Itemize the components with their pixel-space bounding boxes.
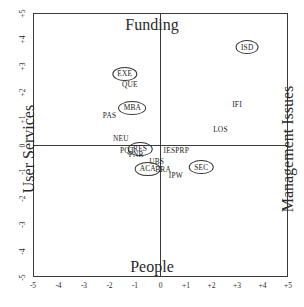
data-point-ifi: IFI (232, 100, 242, 109)
data-point-ipw: IPW (169, 171, 183, 180)
axis-title-top: Funding (0, 16, 304, 34)
x-tick-+3: +3 (233, 281, 241, 290)
data-point-pnr: PNR (129, 150, 144, 159)
x-tick-+4: +4 (259, 281, 267, 290)
y-tick-+3: +3 (18, 58, 27, 74)
axis-title-bottom: People (0, 258, 304, 276)
y-tick-+4: +4 (18, 32, 27, 48)
y-tick-+2: +2 (18, 85, 27, 101)
x-tick-+5: +5 (284, 281, 292, 290)
x-tick-+2: +2 (208, 281, 216, 290)
y-tick--3: -3 (18, 217, 27, 233)
data-point-pas: PAS (103, 110, 116, 119)
data-point-prp: PRP (175, 146, 189, 155)
data-point-sec: SEC (189, 161, 214, 175)
data-point-exe: EXE (112, 67, 137, 81)
y-tick-0: 0 (18, 138, 27, 154)
x-tick--5: -5 (30, 281, 36, 290)
y-tick-+5: +5 (18, 6, 27, 22)
axis-title-right: Management Issues (279, 74, 297, 224)
data-point-mba: MBA (119, 101, 147, 115)
x-tick--1: -1 (132, 281, 138, 290)
data-point-isd: ISD (236, 40, 259, 54)
y-tick--1: -1 (18, 164, 27, 180)
y-axis-line (160, 13, 161, 277)
data-point-que: QUE (122, 80, 138, 89)
y-tick--2: -2 (18, 190, 27, 206)
x-tick-0: 0 (159, 281, 163, 290)
data-point-los: LOS (213, 125, 228, 134)
x-tick-+1: +1 (182, 281, 190, 290)
data-point-neu: NEU (113, 134, 129, 143)
y-tick-+1: +1 (18, 111, 27, 127)
y-tick--5: -5 (18, 270, 27, 286)
y-tick--4: -4 (18, 243, 27, 259)
x-tick--3: -3 (81, 281, 87, 290)
x-tick--4: -4 (55, 281, 61, 290)
perceptual-map-chart: Funding People User Services Management … (0, 0, 304, 307)
x-tick--2: -2 (106, 281, 112, 290)
data-point-ies: IES (164, 146, 176, 155)
